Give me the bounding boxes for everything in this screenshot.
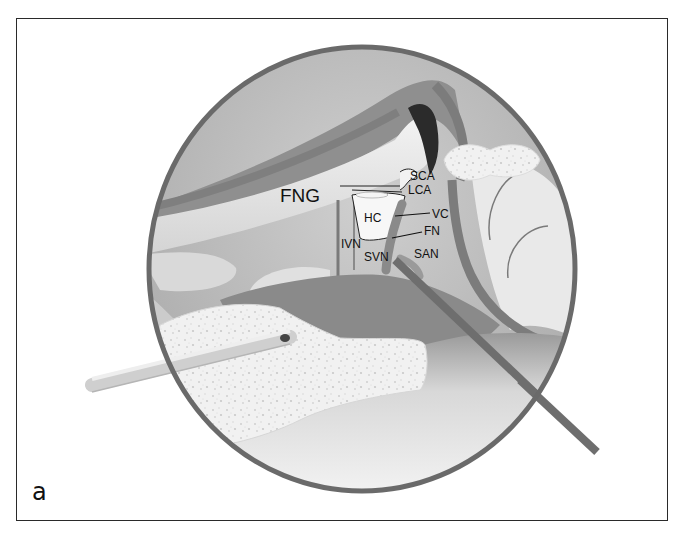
figure-caption (24, 526, 664, 542)
label-ivn: IVN (341, 237, 361, 251)
label-san: SAN (414, 247, 439, 261)
label-lca: LCA (408, 183, 431, 197)
panel-letter: a (32, 478, 47, 506)
label-svn: SVN (364, 250, 389, 264)
label-hc: HC (364, 211, 382, 225)
label-fng: FNG (280, 185, 320, 206)
label-vc: VC (432, 207, 449, 221)
microscope-field (140, 40, 595, 500)
surgical-illustration: FNG SCA LCA HC VC FN IVN SVN SAN (0, 0, 683, 542)
label-fn: FN (424, 224, 440, 238)
label-sca: SCA (410, 169, 435, 183)
